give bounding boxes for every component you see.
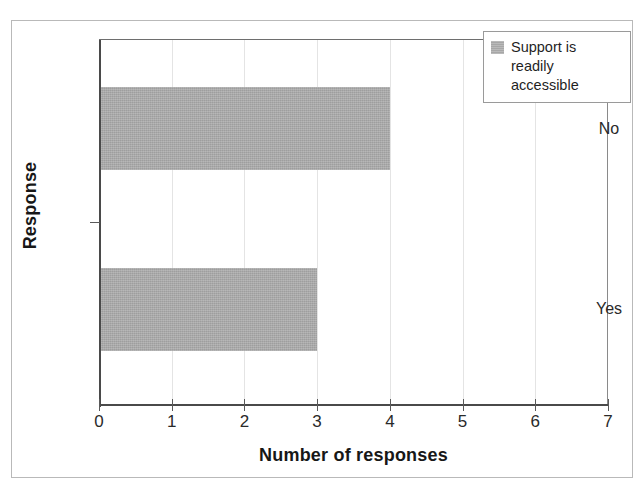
- x-tick-label-7: 7: [588, 412, 628, 432]
- x-axis-title: Number of responses: [99, 445, 608, 466]
- x-tick-7: [608, 399, 609, 411]
- x-tick-label-6: 6: [515, 412, 555, 432]
- bar-yes: [99, 268, 317, 351]
- x-tick-label-5: 5: [443, 412, 483, 432]
- y-tick-label-yes: Yes: [574, 300, 644, 318]
- y-tick-label-no: No: [574, 120, 644, 138]
- bar-no: [99, 87, 390, 170]
- chart-page: 0 1 2 3 4 5 6 7 No Yes Number of respons…: [0, 0, 644, 488]
- x-tick-0: [99, 399, 100, 411]
- x-axis-line: [99, 404, 609, 406]
- x-tick-label-0: 0: [79, 412, 119, 432]
- x-tick-label-3: 3: [297, 412, 337, 432]
- x-tick-4: [390, 399, 391, 411]
- legend-label: Support is readily accessible: [511, 38, 623, 95]
- x-tick-label-1: 1: [152, 412, 192, 432]
- legend-swatch-icon: [491, 41, 504, 54]
- x-tick-2: [244, 399, 245, 411]
- y-axis-title: Response: [20, 116, 41, 296]
- x-tick-label-4: 4: [370, 412, 410, 432]
- gridline-5: [463, 40, 464, 405]
- gridline-4: [390, 40, 391, 405]
- x-tick-3: [317, 399, 318, 411]
- x-tick-5: [463, 399, 464, 411]
- chart-legend: Support is readily accessible: [483, 31, 631, 103]
- y-tick-divider: [90, 222, 100, 223]
- horizontal-bar-chart: 0 1 2 3 4 5 6 7 No Yes Number of respons…: [0, 0, 644, 488]
- x-tick-6: [535, 399, 536, 411]
- y-axis-line: [99, 40, 101, 407]
- x-tick-label-2: 2: [224, 412, 264, 432]
- x-tick-1: [172, 399, 173, 411]
